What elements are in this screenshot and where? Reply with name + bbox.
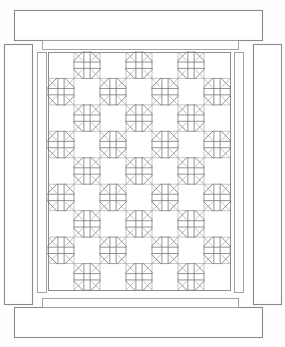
outer-border-right [254,45,282,305]
inner-sash-top [43,41,239,50]
inner-sash-left [38,53,47,293]
quilt-pattern-figure [0,0,285,347]
outer-border-left [5,45,33,305]
outer-border-top [15,11,263,41]
quilt-diagram-svg [0,0,285,347]
inner-sash-right [235,53,244,293]
outer-border-bottom [15,308,263,338]
quilt-body [49,53,231,291]
inner-sash-bottom [43,299,239,308]
